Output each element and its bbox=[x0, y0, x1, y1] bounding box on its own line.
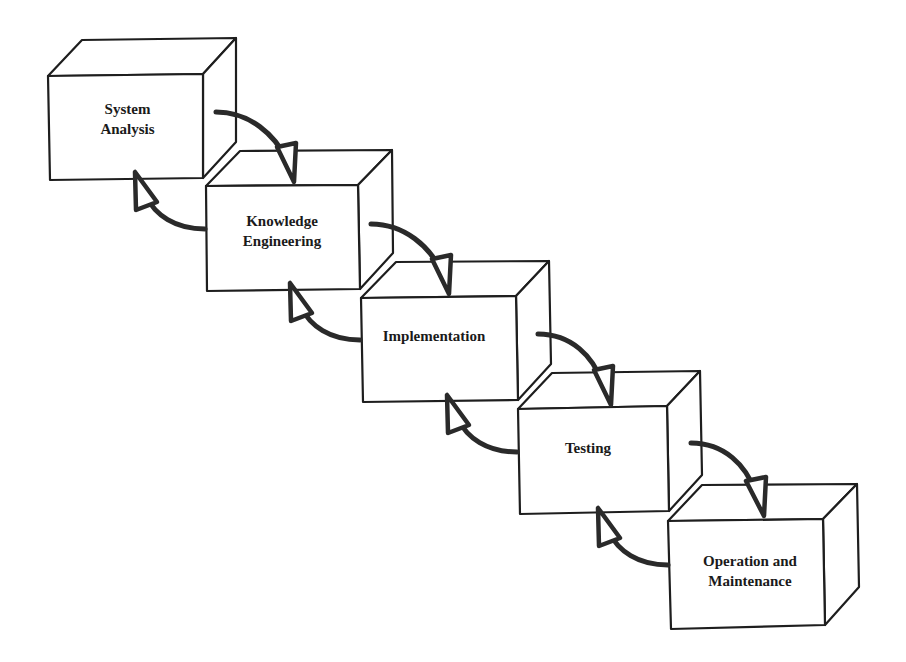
stage-label-line1: Implementation bbox=[364, 326, 504, 346]
stage-label-line1: Testing bbox=[548, 438, 628, 458]
stage-label-line1: System bbox=[70, 99, 185, 119]
stage-label-line2: Analysis bbox=[70, 119, 185, 139]
stage-label-line2: Maintenance bbox=[680, 571, 820, 591]
backward-arrow-4-3 bbox=[447, 395, 517, 452]
stage-label-line1: Operation and bbox=[680, 551, 820, 571]
arrow-head-up-icon bbox=[598, 508, 620, 546]
backward-arrow-5-4 bbox=[598, 508, 668, 565]
backward-arrow-2-1 bbox=[135, 172, 205, 229]
stage-label-system-analysis: System Analysis bbox=[70, 99, 185, 139]
backward-arrow-3-2 bbox=[290, 283, 360, 340]
stage-label-operation-maintenance: Operation and Maintenance bbox=[680, 551, 820, 591]
stage-label-implementation: Implementation bbox=[364, 326, 504, 346]
stage-label-knowledge-engineering: Knowledge Engineering bbox=[218, 211, 346, 251]
stage-label-line1: Knowledge bbox=[218, 211, 346, 231]
box-front-face bbox=[361, 296, 518, 402]
stage-label-testing: Testing bbox=[548, 438, 628, 458]
stage-label-line2: Engineering bbox=[218, 231, 346, 251]
box-front-face bbox=[518, 406, 669, 514]
